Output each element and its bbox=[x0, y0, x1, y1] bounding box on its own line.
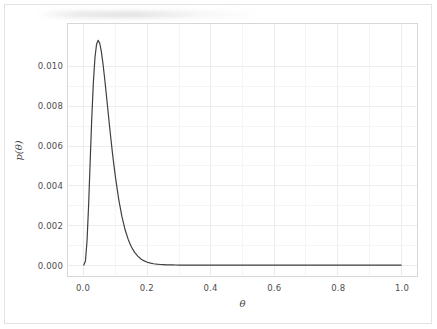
figure-top-shadow bbox=[35, 11, 265, 18]
x-tick-label: 0.8 bbox=[331, 283, 345, 293]
density-curve bbox=[84, 40, 401, 265]
x-tick-label: 1.0 bbox=[395, 283, 409, 293]
y-tick-label: 0.008 bbox=[38, 101, 63, 111]
x-tick-label: 0.0 bbox=[76, 283, 90, 293]
x-tick-label: 0.4 bbox=[204, 283, 218, 293]
y-tick-label: 0.006 bbox=[38, 141, 63, 151]
x-axis-tick-labels: 0.00.20.40.60.81.0 bbox=[67, 283, 418, 297]
figure-card: p(θ) 0.0000.0020.0040.0060.0080.010 0.00… bbox=[4, 4, 432, 324]
y-tick-label: 0.010 bbox=[38, 61, 63, 71]
x-axis-label: θ bbox=[67, 298, 418, 309]
x-tick-label: 0.2 bbox=[140, 283, 154, 293]
y-axis-tick-labels: 0.0000.0020.0040.0060.0080.010 bbox=[19, 23, 63, 277]
y-tick-label: 0.000 bbox=[38, 261, 63, 271]
x-tick-label: 0.6 bbox=[267, 283, 281, 293]
density-curve-layer bbox=[68, 24, 417, 276]
y-tick-label: 0.002 bbox=[38, 221, 63, 231]
y-tick-label: 0.004 bbox=[38, 181, 63, 191]
plot-area bbox=[67, 23, 418, 277]
